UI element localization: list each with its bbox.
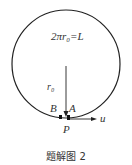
point-a-label: A — [68, 102, 76, 114]
circle-diagram: 2πr₀=L r₀ B A u P — [0, 0, 132, 165]
point-b-label: B — [50, 102, 57, 114]
point-p-label: P — [62, 123, 70, 135]
equation-label: 2πr₀=L — [51, 30, 84, 42]
bead-a — [67, 115, 70, 120]
bead-b — [59, 115, 62, 119]
radius-label: r₀ — [47, 81, 55, 92]
velocity-arrowhead — [91, 117, 97, 121]
figure-caption: 题解图 2 — [0, 148, 132, 163]
velocity-label: u — [100, 112, 106, 124]
